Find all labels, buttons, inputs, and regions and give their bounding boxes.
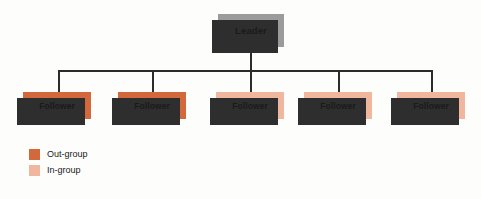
node-follower-2-label: Follower bbox=[134, 101, 170, 111]
legend-label-out-group: Out-group bbox=[47, 149, 88, 159]
node-leader-label: Leader bbox=[235, 25, 267, 36]
legend-item-out-group: Out-group bbox=[29, 147, 88, 161]
diagram-canvas: Leader Follower Follower Follower Follow… bbox=[0, 0, 481, 199]
node-follower-3-label: Follower bbox=[232, 101, 268, 111]
connector-horizontal-bus bbox=[58, 70, 433, 72]
legend-swatch-in-group bbox=[29, 165, 40, 176]
node-follower-3[interactable]: Follower bbox=[216, 92, 284, 119]
legend-item-in-group: In-group bbox=[29, 163, 88, 177]
legend-label-in-group: In-group bbox=[47, 165, 81, 175]
node-follower-5-label: Follower bbox=[413, 101, 449, 111]
node-follower-2[interactable]: Follower bbox=[118, 92, 186, 119]
node-follower-4[interactable]: Follower bbox=[304, 92, 372, 119]
connector-drop-4 bbox=[338, 70, 340, 93]
connector-drop-5 bbox=[431, 70, 433, 93]
node-follower-4-label: Follower bbox=[320, 101, 356, 111]
connector-drop-2 bbox=[152, 70, 154, 93]
node-follower-1[interactable]: Follower bbox=[23, 92, 91, 119]
legend-swatch-out-group bbox=[29, 149, 40, 160]
connector-drop-1 bbox=[58, 70, 60, 93]
node-follower-5[interactable]: Follower bbox=[397, 92, 465, 119]
node-follower-1-label: Follower bbox=[39, 101, 75, 111]
node-leader[interactable]: Leader bbox=[218, 14, 284, 47]
connector-drop-3 bbox=[250, 70, 252, 93]
legend: Out-group In-group bbox=[29, 147, 88, 179]
